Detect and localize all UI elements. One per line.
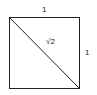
top-side-label: 1 xyxy=(42,5,47,14)
diagonal-label: √2 xyxy=(46,37,55,46)
square-diagram: 1 1 √2 xyxy=(0,0,97,95)
diagonal-line xyxy=(10,18,80,89)
right-side-label: 1 xyxy=(85,48,90,57)
